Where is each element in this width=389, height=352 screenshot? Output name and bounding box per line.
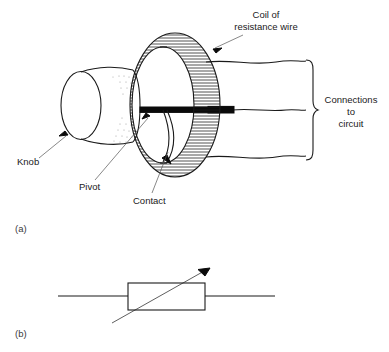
caption-a: (a) xyxy=(15,223,27,234)
top-lead xyxy=(206,61,306,64)
coil-label-line2: resistance wire xyxy=(234,21,297,32)
resistor-rectangle xyxy=(128,283,205,310)
panel-b: (b) xyxy=(15,268,275,339)
contact-label: Contact xyxy=(133,195,166,206)
caption-b: (b) xyxy=(15,328,27,339)
variable-resistor-figure: Coil of resistance wire Connections to c… xyxy=(0,0,389,352)
bottom-lead xyxy=(206,156,306,159)
panel-a: Coil of resistance wire Connections to c… xyxy=(15,9,378,234)
wiper-contact-arm xyxy=(162,110,174,164)
knob-label: Knob xyxy=(17,156,39,167)
connections-label-line2: to xyxy=(347,106,355,117)
connections-label-line3: circuit xyxy=(339,118,364,129)
coil-label-line1: Coil of xyxy=(253,9,280,20)
middle-lead xyxy=(232,109,306,110)
pivot-label: Pivot xyxy=(79,181,100,192)
cylinder-knob xyxy=(61,67,140,144)
toroidal-coil xyxy=(128,33,222,177)
right-curly-brace xyxy=(306,60,318,160)
connections-label-line1: Connections xyxy=(325,94,378,105)
